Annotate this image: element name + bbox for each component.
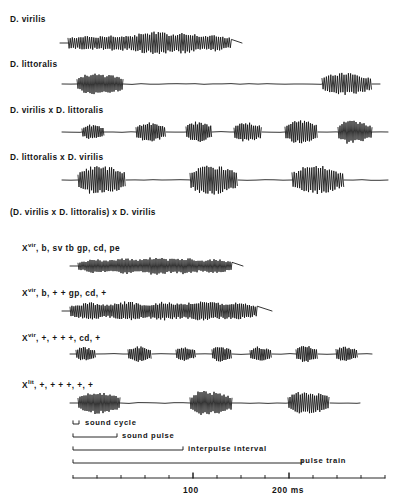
oscillogram-figure: D. virilisD. littoralisD. virilis x D. l… <box>0 0 397 502</box>
legend-label-pulse-train: pulse train <box>300 456 346 465</box>
axis-tick-label: 100 <box>183 485 199 495</box>
legend-label-interpulse-interval: interpulse interval <box>188 444 267 453</box>
legend-label-sound-pulse: sound pulse <box>122 431 174 440</box>
axis-tick-label: 200 ms <box>272 485 304 495</box>
legend-brackets <box>0 0 397 502</box>
legend-label-sound-cycle: sound cycle <box>85 418 137 427</box>
